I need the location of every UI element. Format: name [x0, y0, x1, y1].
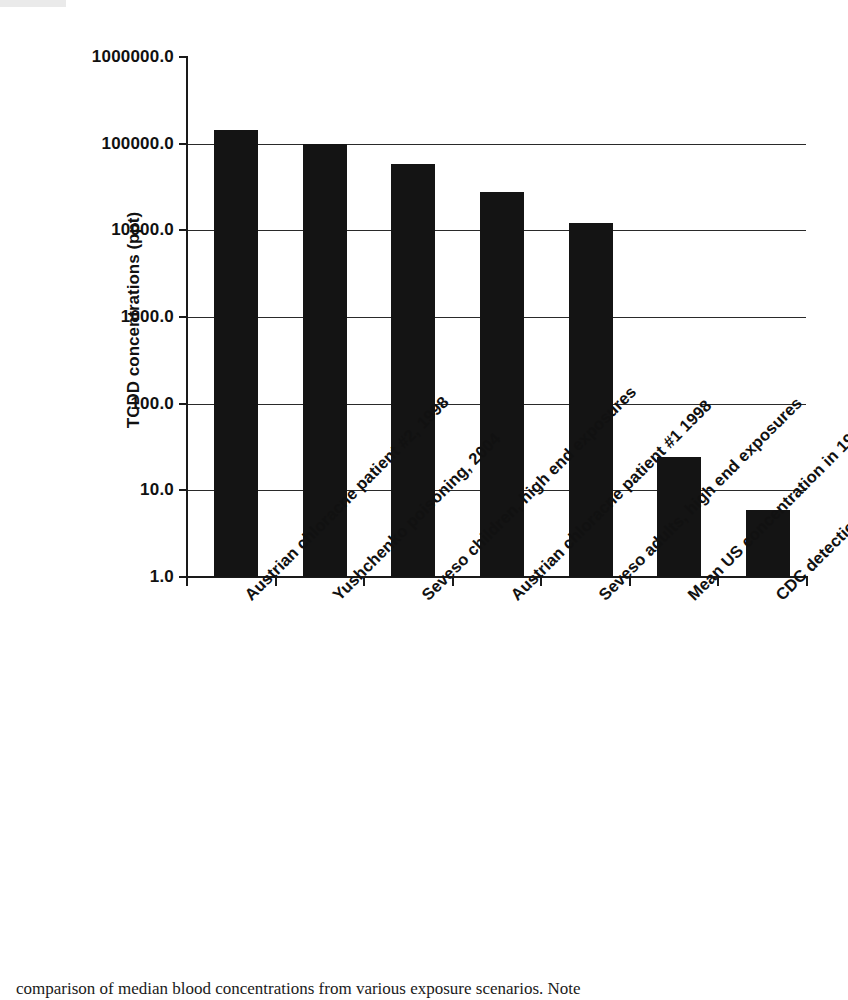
y-axis-title-container: TCDD concentrations (ppt) — [8, 140, 48, 500]
y-axis-tick — [179, 403, 188, 405]
y-axis-tick-label: 1.0 — [150, 567, 174, 587]
y-axis-tick-label: 100000.0 — [101, 134, 174, 154]
figure-caption: comparison of median blood concentration… — [16, 978, 832, 999]
figure-tcdd-concentrations: TCDD concentrations (ppt) 1000000.010000… — [0, 0, 848, 1000]
y-axis-tick — [179, 489, 188, 491]
y-axis-tick-label: 1000000.0 — [92, 47, 174, 67]
y-axis-tick — [179, 56, 188, 58]
y-axis-tick — [179, 316, 188, 318]
y-axis-tick-label: 10.0 — [140, 480, 174, 500]
x-axis-tick — [186, 576, 188, 586]
y-axis-tick-label: 10000.0 — [111, 220, 174, 240]
scan-artifact — [0, 0, 66, 7]
y-axis-tick — [179, 143, 188, 145]
gridline — [186, 144, 806, 145]
y-axis-tick — [179, 229, 188, 231]
y-axis-tick-label: 100.0 — [130, 394, 174, 414]
y-axis-tick-label: 1000.0 — [121, 307, 174, 327]
bar — [214, 130, 258, 577]
